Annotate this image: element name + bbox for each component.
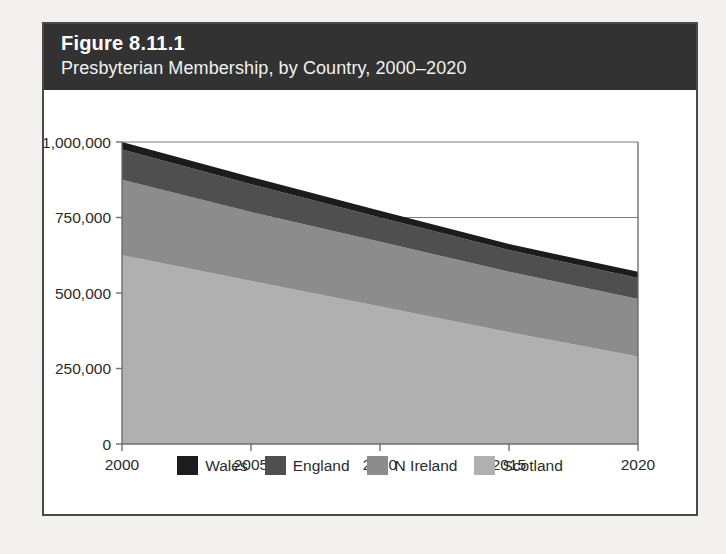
legend-swatch: [474, 456, 495, 475]
legend-label: Scotland: [502, 457, 562, 475]
figure-number: Figure 8.11.1: [61, 31, 696, 56]
figure-title: Presbyterian Membership, by Country, 200…: [61, 56, 696, 80]
legend-swatch: [177, 456, 198, 475]
y-tick-label: 0: [102, 436, 111, 453]
y-tick-label: 500,000: [55, 285, 111, 302]
legend-label: Wales: [205, 457, 248, 475]
y-tick-label: 1,000,000: [44, 134, 111, 151]
legend-label: England: [293, 457, 350, 475]
y-tick-label: 250,000: [55, 360, 111, 377]
figure-header: Figure 8.11.1 Presbyterian Membership, b…: [44, 24, 696, 90]
figure-card: Figure 8.11.1 Presbyterian Membership, b…: [42, 22, 698, 516]
legend-item-scotland[interactable]: Scotland: [474, 456, 562, 475]
chart-legend: WalesEnglandN IrelandScotland: [44, 456, 696, 475]
legend-swatch: [265, 456, 286, 475]
area-series-group: [122, 142, 638, 444]
legend-swatch: [367, 456, 388, 475]
chart-region: 0250,000500,000750,0001,000,000 20002005…: [44, 90, 696, 518]
legend-item-england[interactable]: England: [265, 456, 350, 475]
stacked-area-chart: 0250,000500,000750,0001,000,000 20002005…: [44, 90, 700, 518]
legend-item-wales[interactable]: Wales: [177, 456, 248, 475]
y-axis-labels: 0250,000500,000750,0001,000,000: [44, 134, 111, 453]
legend-label: N Ireland: [395, 457, 458, 475]
legend-item-n-ireland[interactable]: N Ireland: [367, 456, 458, 475]
y-tick-label: 750,000: [55, 209, 111, 226]
